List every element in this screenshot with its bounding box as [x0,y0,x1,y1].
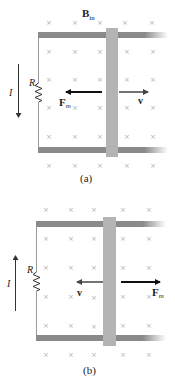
svg-text:×: × [97,162,103,170]
svg-text:×: × [72,19,78,27]
svg-text:×: × [97,48,103,56]
svg-text:×: × [97,76,103,84]
svg-text:×: × [46,133,52,141]
svg-text:×: × [91,206,97,214]
current-label: I [8,87,13,98]
svg-text:×: × [97,19,103,27]
sliding-bar-diagram: Bin × × × × × × × × × × × × × × × × × × … [0,0,175,381]
svg-text:×: × [124,76,130,84]
svg-text:×: × [46,162,52,170]
svg-text:×: × [124,48,130,56]
svg-text:×: × [91,323,97,331]
svg-text:×: × [68,206,74,214]
svg-text:×: × [146,206,152,214]
svg-text:×: × [124,133,130,141]
svg-text:×: × [72,76,78,84]
svg-text:×: × [72,104,78,112]
svg-text:×: × [124,104,130,112]
resistor-label: R [26,264,33,275]
field-label: Bin [82,7,95,22]
svg-text:×: × [72,48,78,56]
svg-text:×: × [150,133,156,141]
svg-text:×: × [120,206,126,214]
resistor-icon [33,272,40,291]
svg-text:×: × [68,264,74,272]
force-label: Fm [59,96,71,110]
resistor-circuit [33,227,40,335]
svg-text:×: × [91,294,97,302]
svg-text:×: × [146,322,152,330]
svg-text:×: × [68,293,74,301]
velocity-label: v [138,95,143,106]
top-rail [36,221,166,227]
svg-text:×: × [68,351,74,359]
svg-text:×: × [46,48,52,56]
panel-a: Bin × × × × × × × × × × × × × × × × × × … [8,7,168,185]
svg-text:×: × [72,162,78,170]
panel-b: × × × × × × × × × × × × × × × × × × × × … [6,206,166,377]
svg-text:×: × [150,48,156,56]
svg-text:×: × [43,206,49,214]
svg-text:×: × [97,133,103,141]
svg-text:×: × [120,322,126,330]
svg-text:×: × [150,162,156,170]
svg-text:×: × [91,235,97,243]
svg-text:×: × [43,351,49,359]
svg-text:×: × [68,235,74,243]
resistor-icon [35,83,42,102]
svg-text:×: × [150,104,156,112]
sliding-bar [106,28,118,157]
svg-text:×: × [146,235,152,243]
resistor-label: R [28,77,35,88]
svg-text:×: × [149,19,155,27]
bottom-rail [36,335,166,341]
svg-text:×: × [146,293,152,301]
force-label: Fm [152,286,164,300]
svg-text:×: × [124,162,130,170]
svg-text:×: × [72,133,78,141]
svg-text:×: × [120,293,126,301]
caption-a: (a) [80,172,93,185]
caption-b: (b) [83,364,96,377]
svg-text:×: × [146,264,152,272]
resistor-circuit [35,38,42,147]
svg-text:×: × [46,76,52,84]
svg-text:×: × [46,104,52,112]
svg-text:×: × [43,322,49,330]
svg-text:×: × [150,76,156,84]
svg-text:×: × [146,351,152,359]
svg-text:×: × [120,264,126,272]
svg-text:×: × [97,104,103,112]
svg-text:×: × [120,351,126,359]
svg-text:×: × [122,19,128,27]
svg-text:×: × [68,322,74,330]
svg-text:×: × [91,351,97,359]
svg-text:×: × [43,235,49,243]
velocity-label: v [77,287,82,298]
current-label: I [6,278,11,289]
sliding-bar [103,217,116,346]
bottom-rail [38,147,168,153]
svg-text:×: × [43,264,49,272]
svg-text:×: × [43,293,49,301]
svg-text:×: × [46,19,52,27]
svg-text:×: × [120,235,126,243]
top-rail [38,32,168,38]
svg-text:×: × [91,264,97,272]
